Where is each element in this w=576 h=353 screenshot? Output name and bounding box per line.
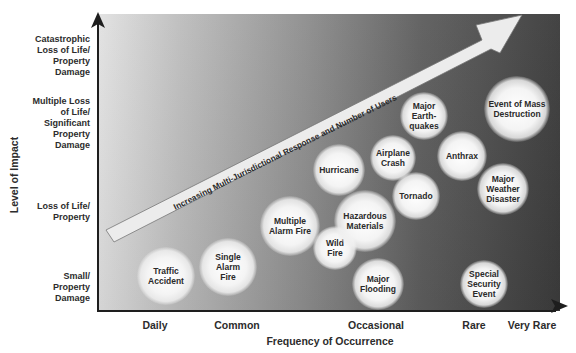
axes-and-arrow xyxy=(0,0,576,353)
x-axis-arrowhead-icon xyxy=(551,299,568,313)
